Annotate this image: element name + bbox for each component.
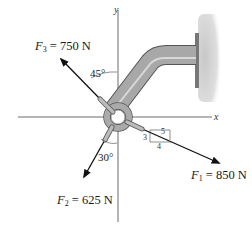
angle-45-label: 45° [90,68,105,79]
force-f1-arrow [127,122,219,163]
slope-horiz-label: 4 [157,143,161,151]
slope-hyp-label: 5 [161,128,165,136]
angle-30-label: 30° [98,152,113,163]
wall [195,14,220,102]
force-f1-label: F1 = 850 N [191,169,247,183]
slope-vert-label: 3 [143,134,147,142]
force-f2-label: F2 = 625 N [57,194,113,208]
force-f3-label: F3 = 750 N [35,40,91,54]
x-axis-label: x [214,112,218,122]
force-f3-arrow [61,59,113,112]
y-axis-label: y [114,5,118,15]
pipe [112,55,196,112]
